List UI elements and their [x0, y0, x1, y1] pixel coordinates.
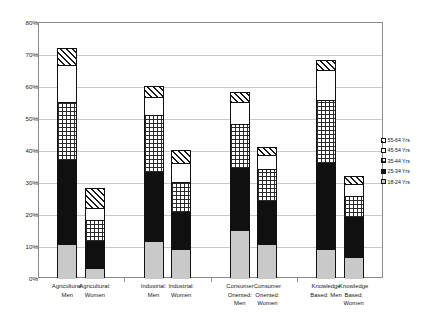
x-tick-mark	[124, 278, 125, 282]
legend-item[interactable]: 45-54 Yrs	[381, 147, 423, 153]
bar-segment[interactable]	[345, 218, 363, 258]
bar-segment[interactable]	[145, 173, 163, 242]
legend-item[interactable]: 25-34 Yrs	[381, 168, 423, 174]
bar-column[interactable]	[230, 92, 250, 278]
bar-segment[interactable]	[58, 161, 76, 246]
bar-segment[interactable]	[58, 103, 76, 161]
x-label-line: Women	[65, 291, 125, 300]
bar-segment[interactable]	[258, 148, 276, 156]
x-axis-label: KnowledgeBased:Women	[324, 282, 384, 308]
legend-swatch-icon	[381, 179, 386, 184]
bar-segment[interactable]	[172, 164, 190, 183]
bar-column[interactable]	[316, 60, 336, 278]
y-tick-label: 20%	[0, 211, 38, 218]
bar-segment[interactable]	[258, 170, 276, 202]
bar-column[interactable]	[57, 48, 77, 278]
bar-column[interactable]	[144, 86, 164, 278]
legend-item[interactable]: 18-24 Yrs	[381, 179, 423, 185]
bar-segment[interactable]	[86, 221, 104, 242]
x-label-line: Knowledge	[324, 282, 384, 291]
bar-segment[interactable]	[231, 93, 249, 103]
bar-segment[interactable]	[86, 242, 104, 269]
bar-segment[interactable]	[172, 183, 190, 213]
legend-swatch-icon	[381, 158, 386, 163]
x-axis-label: Agricultural:Women	[65, 282, 125, 299]
bar-segment[interactable]	[258, 156, 276, 170]
bar-segment[interactable]	[317, 71, 335, 101]
bar-segment[interactable]	[145, 98, 163, 116]
bar-segment[interactable]	[345, 177, 363, 185]
x-label-line: Agricultural:	[65, 282, 125, 291]
bar-segment[interactable]	[172, 151, 190, 164]
bar-segment[interactable]	[172, 250, 190, 279]
x-axis-label: Industrial:Women	[151, 282, 211, 299]
bar-segment[interactable]	[58, 245, 76, 279]
y-tick-mark	[35, 278, 38, 279]
x-label-line: Industrial:	[151, 282, 211, 291]
bar-segment[interactable]	[317, 164, 335, 250]
bar-segment[interactable]	[345, 197, 363, 218]
bar-column[interactable]	[171, 150, 191, 278]
bar-segment[interactable]	[145, 116, 163, 174]
x-label-line: Consumer	[237, 282, 297, 291]
bar-segment[interactable]	[231, 103, 249, 125]
x-label-line: Women	[237, 299, 297, 308]
bars-layer	[38, 22, 383, 278]
chart-legend: 55-64 Yrs45-54 Yrs35-44 Yrs25-34 Yrs18-2…	[381, 137, 423, 189]
x-axis-labels: Agricultural:MenAgricultural:WomenIndust…	[38, 282, 383, 324]
stacked-bar-chart: Proportion Business Creations by Sector …	[0, 0, 423, 325]
legend-label: 45-54 Yrs	[388, 147, 410, 153]
legend-label: 25-34 Yrs	[388, 168, 410, 174]
x-label-line: Oriented:	[237, 291, 297, 300]
bar-segment[interactable]	[86, 209, 104, 222]
x-label-line: Women	[151, 291, 211, 300]
y-tick-label: 10%	[0, 243, 38, 250]
legend-item[interactable]: 55-64 Yrs	[381, 137, 423, 143]
bar-column[interactable]	[344, 176, 364, 278]
legend-item[interactable]: 35-44 Yrs	[381, 158, 423, 164]
legend-swatch-icon	[381, 138, 386, 143]
legend-swatch-icon	[381, 148, 386, 153]
legend-label: 55-64 Yrs	[388, 137, 410, 143]
bar-segment[interactable]	[231, 169, 249, 231]
bar-segment[interactable]	[231, 231, 249, 279]
y-tick-label: 30%	[0, 179, 38, 186]
legend-label: 18-24 Yrs	[388, 179, 410, 185]
bar-segment[interactable]	[58, 66, 76, 103]
bar-segment[interactable]	[86, 189, 104, 208]
legend-swatch-icon	[381, 169, 386, 174]
bar-column[interactable]	[85, 188, 105, 278]
y-tick-label: 60%	[0, 83, 38, 90]
y-tick-label: 80%	[0, 19, 38, 26]
bar-segment[interactable]	[145, 242, 163, 279]
legend-label: 35-44 Yrs	[388, 158, 410, 164]
y-tick-label: 40%	[0, 147, 38, 154]
bar-segment[interactable]	[172, 213, 190, 250]
bar-segment[interactable]	[317, 250, 335, 279]
bar-segment[interactable]	[345, 185, 363, 198]
y-tick-label: 50%	[0, 115, 38, 122]
x-tick-mark	[297, 278, 298, 282]
y-tick-label: 70%	[0, 51, 38, 58]
bar-segment[interactable]	[345, 258, 363, 279]
x-label-line: Based:	[324, 291, 384, 300]
bar-segment[interactable]	[317, 101, 335, 163]
bar-segment[interactable]	[145, 87, 163, 98]
x-tick-mark	[211, 278, 212, 282]
bar-column[interactable]	[257, 147, 277, 278]
bar-segment[interactable]	[258, 202, 276, 245]
x-label-line: Women	[324, 299, 384, 308]
bar-segment[interactable]	[317, 61, 335, 71]
x-axis-label: ConsumerOriented:Women	[237, 282, 297, 308]
bar-segment[interactable]	[86, 269, 104, 279]
bar-segment[interactable]	[258, 245, 276, 279]
bar-segment[interactable]	[58, 49, 76, 67]
bar-segment[interactable]	[231, 125, 249, 168]
y-tick-label: 0%	[0, 275, 38, 282]
